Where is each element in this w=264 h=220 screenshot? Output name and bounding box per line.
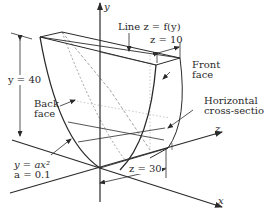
back-face-label-2: face — [34, 109, 55, 119]
z30-label: z = 30 — [129, 164, 162, 174]
line-label: Line z = f(y) — [118, 22, 181, 32]
front-face-curve — [120, 65, 156, 170]
height-label: y = 40 — [8, 75, 41, 85]
z10-label: z = 10 — [150, 35, 183, 45]
a-value-label: a = 0.1 — [14, 170, 51, 180]
horizontal-label-2: cross-section — [204, 106, 264, 116]
x-axis-label: x — [218, 196, 224, 206]
y-axis-label: y — [104, 2, 110, 12]
front-face-label-2: face — [192, 70, 213, 80]
horizontal-cross-section — [68, 122, 165, 142]
z-axis-label: z — [215, 124, 220, 134]
